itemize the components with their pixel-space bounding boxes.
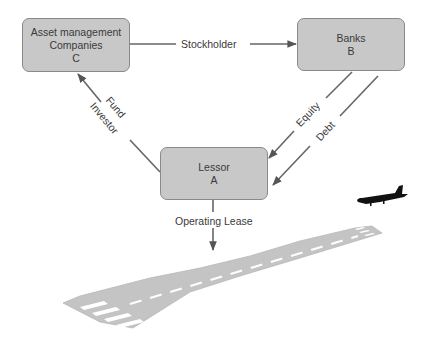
fund-investor-arrow <box>78 74 160 172</box>
node-label: Banks <box>336 32 365 45</box>
airplane-icon <box>357 185 408 206</box>
node-label: Asset management <box>31 26 121 39</box>
node-asset-management-companies: Asset management Companies C <box>22 18 130 72</box>
operating-lease-label: Operating Lease <box>175 215 253 227</box>
runway-illustration <box>63 226 382 328</box>
node-id: A <box>210 174 217 187</box>
node-id: C <box>72 52 80 65</box>
node-banks: Banks B <box>297 18 405 71</box>
node-label: Companies <box>49 39 102 52</box>
lease-structure-diagram: Asset management Companies C Banks B Les… <box>0 0 429 344</box>
node-id: B <box>347 45 354 58</box>
node-label: Lessor <box>198 161 230 174</box>
node-lessor: Lessor A <box>160 147 268 200</box>
stockholder-label: Stockholder <box>181 38 236 50</box>
